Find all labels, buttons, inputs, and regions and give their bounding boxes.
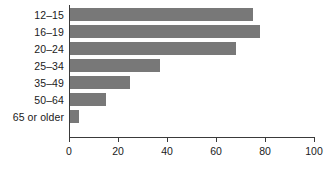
bar-row xyxy=(69,110,314,123)
category-label: 12–15 xyxy=(34,9,64,21)
x-axis-tick-label: 40 xyxy=(161,145,173,157)
category-label-row: 25–34 xyxy=(0,59,64,72)
bar-row xyxy=(69,59,314,72)
bar-row xyxy=(69,42,314,55)
bar xyxy=(69,25,260,38)
x-axis-tick-label: 20 xyxy=(112,145,124,157)
category-label-row: 35–49 xyxy=(0,76,64,89)
bar xyxy=(69,59,160,72)
bars-container xyxy=(69,8,314,131)
x-axis-tick xyxy=(118,137,119,142)
bar xyxy=(69,8,253,21)
x-axis-tick xyxy=(265,137,266,142)
bar-row xyxy=(69,93,314,106)
bar-row xyxy=(69,76,314,89)
category-label-row: 65 or older xyxy=(0,110,64,123)
bar-row xyxy=(69,8,314,21)
y-axis-line xyxy=(69,5,70,138)
x-axis-tick-label: 60 xyxy=(210,145,222,157)
category-label-row: 16–19 xyxy=(0,25,64,38)
bar xyxy=(69,110,79,123)
category-label: 16–19 xyxy=(34,26,64,38)
x-axis-line xyxy=(69,137,315,138)
x-axis-tick xyxy=(69,137,70,142)
bar xyxy=(69,42,236,55)
category-label: 35–49 xyxy=(34,77,64,89)
category-label: 20–24 xyxy=(34,43,64,55)
bar-chart: 12–15 16–19 20–24 25–34 35–49 50–64 65 o… xyxy=(0,0,333,169)
category-label: 25–34 xyxy=(34,60,64,72)
category-label-row: 20–24 xyxy=(0,42,64,55)
x-axis-tick xyxy=(167,137,168,142)
x-axis-tick-label: 0 xyxy=(66,145,72,157)
x-axis-tick xyxy=(314,137,315,142)
bar xyxy=(69,93,106,106)
bar xyxy=(69,76,130,89)
bar-row xyxy=(69,25,314,38)
category-label-row: 12–15 xyxy=(0,8,64,21)
category-label: 50–64 xyxy=(34,94,64,106)
x-axis-tick-label: 100 xyxy=(305,145,323,157)
category-label: 65 or older xyxy=(13,111,64,123)
x-axis-tick-label: 80 xyxy=(259,145,271,157)
plot-area: 12–15 16–19 20–24 25–34 35–49 50–64 65 o… xyxy=(0,0,333,169)
x-axis-tick xyxy=(216,137,217,142)
category-label-row: 50–64 xyxy=(0,93,64,106)
category-axis-labels: 12–15 16–19 20–24 25–34 35–49 50–64 65 o… xyxy=(0,8,64,131)
